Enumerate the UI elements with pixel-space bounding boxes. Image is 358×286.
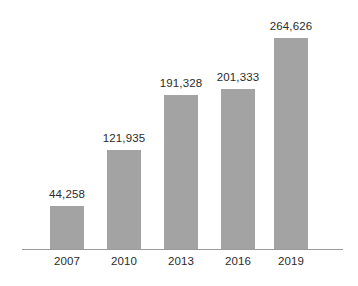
bar-rect[interactable] — [50, 206, 84, 249]
plot-area: 44,258 121,935 191,328 201,333 264,626 — [0, 0, 358, 249]
bar-rect[interactable] — [274, 38, 308, 249]
bar-group[interactable]: 201,333 — [221, 71, 255, 249]
x-tick-label-2019: 2019 — [261, 254, 321, 268]
bar-value-label: 264,626 — [270, 20, 312, 33]
x-tick-label-2013: 2013 — [151, 254, 211, 268]
x-tick-label-2010: 2010 — [94, 254, 154, 268]
bar-group[interactable]: 264,626 — [274, 20, 308, 249]
bar-chart: 44,258 121,935 191,328 201,333 264,626 2… — [0, 0, 358, 286]
bar-rect[interactable] — [107, 150, 141, 249]
bar-value-label: 201,333 — [217, 71, 259, 84]
bar-rect[interactable] — [221, 89, 255, 249]
bar-value-label: 121,935 — [103, 132, 145, 145]
x-axis-labels: 2007 2010 2013 2016 2019 — [0, 254, 358, 272]
x-axis-line — [22, 249, 343, 250]
bar-group[interactable]: 44,258 — [50, 188, 84, 249]
bar-group[interactable]: 191,328 — [164, 77, 198, 249]
x-tick-label-2007: 2007 — [37, 254, 97, 268]
bar-group[interactable]: 121,935 — [107, 132, 141, 249]
bar-rect[interactable] — [164, 95, 198, 249]
bar-value-label: 44,258 — [49, 188, 85, 201]
bar-value-label: 191,328 — [160, 77, 202, 90]
x-tick-label-2016: 2016 — [208, 254, 268, 268]
